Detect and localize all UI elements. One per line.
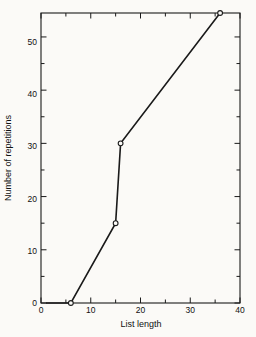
y-axis-label: Number of repetitions [4,115,13,201]
top-axis-ticks [41,13,240,19]
x-axis-label: List length [120,320,161,329]
data-point-marker [118,141,123,146]
y-tick-label: 10 [28,247,37,256]
y-tick-label: 50 [28,38,37,47]
x-tick-label: 40 [235,306,244,315]
y-tick-label: 30 [28,142,37,151]
right-axis-ticks [235,37,241,303]
chart-figure: 0 10 20 30 40 0 10 20 30 40 50 List leng… [0,0,256,337]
plot-area [0,0,256,337]
x-tick-label: 0 [39,306,44,315]
x-tick-label: 20 [136,306,145,315]
data-markers-repetitions [44,11,223,306]
data-line-repetitions [46,13,220,303]
y-tick-label: 0 [32,299,37,308]
y-tick-label: 20 [28,194,37,203]
x-tick-label: 10 [86,306,95,315]
y-axis-ticks [41,37,47,303]
y-tick-label: 40 [28,90,37,99]
axes-frame [41,13,240,303]
data-point-marker [68,301,73,306]
data-point-marker [113,221,118,226]
data-point-marker [218,11,223,16]
x-tick-label: 30 [186,306,195,315]
